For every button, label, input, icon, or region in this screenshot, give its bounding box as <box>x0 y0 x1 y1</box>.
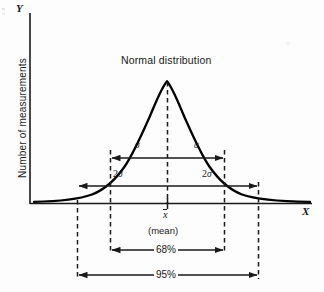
axes <box>30 13 312 204</box>
two-sigma-right-symbol: σ <box>207 169 212 179</box>
pct68-label: 68% <box>154 245 178 255</box>
sigma-label-left: σ <box>135 141 140 151</box>
two-sigma-left-symbol: σ <box>118 169 123 179</box>
scan-speck <box>286 42 290 45</box>
y-axis-tip-label: Y <box>16 3 23 14</box>
scan-speck <box>2 8 5 10</box>
y-axis-title: Number of measurements <box>17 58 28 178</box>
two-sigma-label-left: 2σ <box>113 169 123 180</box>
pct95-label: 95% <box>154 270 178 280</box>
mean-symbol-glyph: x <box>163 210 168 221</box>
scan-speck <box>2 13 5 15</box>
x-axis-tip-label: X <box>302 206 309 217</box>
mean-symbol-label: x <box>163 210 168 221</box>
sigma-label-right: σ <box>194 141 199 151</box>
normal-distribution-figure: Y X Number of measurements Normal distri… <box>0 0 324 292</box>
mean-caption-label: (mean) <box>148 226 178 236</box>
two-sigma-label-right: 2σ <box>202 169 212 180</box>
chart-title: Normal distribution <box>121 55 211 66</box>
normal-curve <box>34 81 310 202</box>
